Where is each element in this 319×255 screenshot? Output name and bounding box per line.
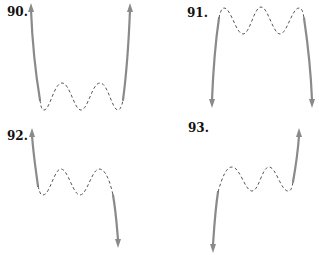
graph-91-left-end	[212, 18, 219, 100]
graph-92-left-end	[32, 135, 38, 186]
arrow-up-icon	[127, 3, 133, 12]
graph-91-right-end	[304, 18, 312, 100]
graph-91-middle	[219, 7, 304, 34]
graph-93-middle	[218, 167, 293, 192]
arrow-down-icon	[209, 99, 215, 108]
graph-90-left-end	[31, 10, 40, 100]
graph-93-right-end	[293, 136, 299, 182]
graph-90-middle	[40, 83, 123, 110]
graph-90	[28, 3, 133, 110]
graph-91	[209, 7, 315, 108]
graph-93	[210, 128, 302, 253]
graph-92-middle	[38, 169, 113, 195]
arrow-down-icon	[210, 244, 216, 253]
graph-93-left-end	[213, 192, 218, 245]
graph-92	[29, 128, 121, 248]
arrow-down-icon	[115, 239, 121, 248]
arrow-up-icon	[29, 128, 35, 137]
graphs-canvas	[0, 0, 319, 255]
graph-90-right-end	[123, 10, 130, 100]
arrow-down-icon	[309, 99, 315, 108]
arrow-up-icon	[28, 3, 34, 12]
arrow-up-icon	[296, 128, 302, 137]
graph-92-right-end	[113, 195, 118, 240]
